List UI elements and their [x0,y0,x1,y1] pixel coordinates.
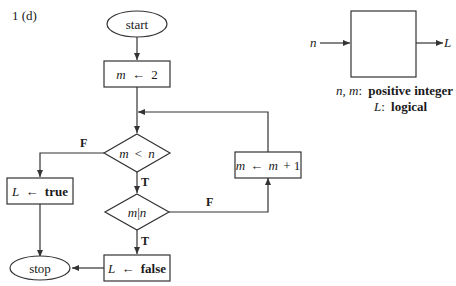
branch-label-true: T [141,175,149,189]
svg-text:L ← false: L ← false [107,261,166,276]
svg-text:m < n: m < n [119,146,155,161]
decision-m-divides-n: m|n [105,194,169,230]
output-label: L [443,35,451,50]
svg-text:m ← m + 1: m ← m + 1 [236,158,301,173]
svg-text:start: start [126,17,149,32]
branch-label-true: T [141,234,149,248]
input-label: n [310,35,317,50]
stop-terminal: stop [10,256,70,280]
legend-line-1: n, m: positive integer [336,83,453,98]
flowchart-diagram: 1 (d) start m ← 2 m < n F L ← true [0,0,456,286]
branch-label-false: F [206,195,213,209]
increment-box: m ← m + 1 [235,152,301,178]
problem-label: 1 (d) [12,8,37,23]
start-terminal: start [107,11,167,37]
false-branch-arrow [40,153,104,177]
io-box [351,11,416,77]
false-branch-arrow [169,178,268,212]
svg-text:stop: stop [29,261,51,276]
branch-label-false: F [80,136,87,150]
svg-text:m|n: m|n [128,205,147,220]
init-process-box: m ← 2 [104,61,170,87]
legend-line-2: L: logical [373,99,428,114]
set-false-box: L ← false [104,255,170,281]
svg-text:m ← 2: m ← 2 [116,67,157,82]
svg-text:L ← true: L ← true [11,184,68,199]
decision-m-less-n: m < n [104,134,170,172]
set-true-box: L ← true [7,178,73,204]
